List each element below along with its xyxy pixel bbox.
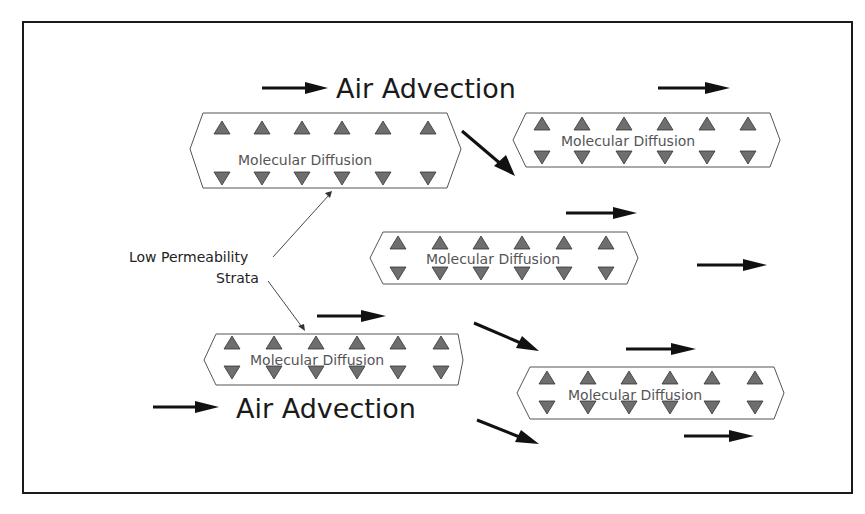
- arrow-diagonal-icon: [474, 323, 539, 351]
- molecular-diffusion-box: Molecular Diffusion: [513, 113, 780, 167]
- arrow-right-icon: [317, 310, 386, 322]
- arrow-right-icon: [262, 82, 328, 94]
- box-label: Molecular Diffusion: [561, 133, 695, 149]
- strata-label: Strata: [216, 270, 259, 286]
- molecular-diffusion-box: Molecular Diffusion: [517, 367, 784, 419]
- arrow-right-icon: [684, 430, 754, 442]
- arrow-right-icon: [658, 82, 730, 94]
- air-advection-bottom-label: Air Advection: [236, 393, 416, 424]
- arrow-diagonal-icon: [462, 131, 515, 176]
- air-advection-top-label: Air Advection: [336, 73, 516, 104]
- pointer-arrow-icon: [268, 281, 305, 331]
- arrow-right-icon: [626, 343, 696, 355]
- box-label: Molecular Diffusion: [250, 352, 384, 368]
- box-label: Molecular Diffusion: [426, 251, 560, 267]
- diagram-canvas: Air Advection Molecular Diffusion Molecu…: [0, 0, 865, 514]
- arrow-right-icon: [153, 401, 219, 413]
- box-label: Molecular Diffusion: [238, 152, 372, 168]
- pointer-arrow-icon: [273, 191, 332, 257]
- molecular-diffusion-box: Molecular Diffusion: [190, 113, 461, 188]
- arrow-right-icon: [566, 207, 637, 219]
- molecular-diffusion-box: Molecular Diffusion: [370, 232, 638, 284]
- box-label: Molecular Diffusion: [568, 387, 702, 403]
- molecular-diffusion-box: Molecular Diffusion: [204, 334, 463, 385]
- arrow-right-icon: [697, 259, 767, 271]
- arrow-diagonal-icon: [477, 420, 539, 444]
- low-permeability-label: Low Permeability: [129, 249, 248, 265]
